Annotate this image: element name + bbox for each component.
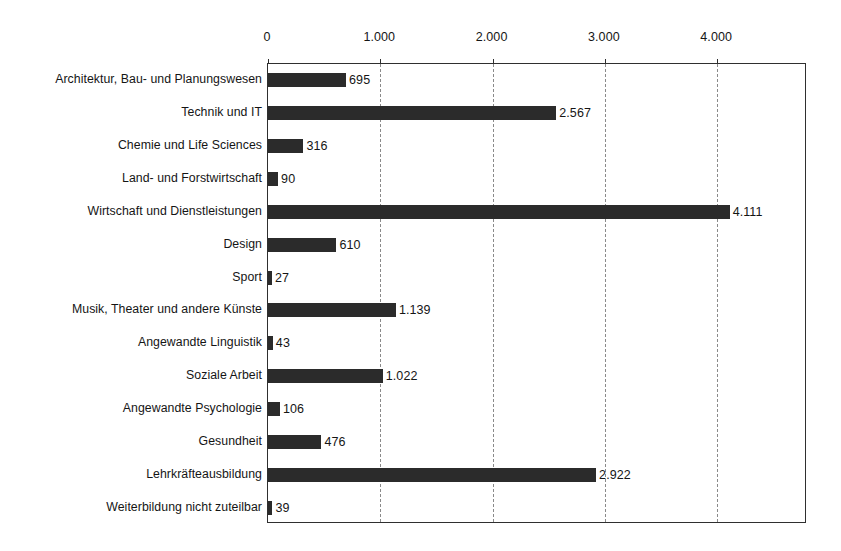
bar	[268, 172, 278, 186]
category-label: Soziale Arbeit	[186, 368, 262, 382]
category-label: Musik, Theater und andere Künste	[72, 302, 262, 316]
x-axis-tick	[268, 59, 269, 64]
x-tick-label: 1.000	[363, 30, 395, 44]
bar-value-label: 106	[283, 402, 304, 416]
bar-value-label: 476	[324, 435, 345, 449]
category-label: Angewandte Linguistik	[138, 335, 262, 349]
x-tick-label: 4.000	[700, 30, 732, 44]
bar-value-label: 1.022	[386, 369, 418, 383]
bar	[268, 369, 383, 383]
bar-value-label: 1.139	[399, 303, 431, 317]
x-tick-label: 3.000	[588, 30, 620, 44]
category-label: Gesundheit	[199, 434, 262, 448]
category-label: Wirtschaft und Dienstleistungen	[88, 204, 262, 218]
category-label: Chemie und Life Sciences	[118, 138, 262, 152]
category-label: Design	[223, 237, 262, 251]
category-label: Architektur, Bau- und Planungswesen	[55, 72, 262, 86]
bar-value-label: 695	[349, 73, 370, 87]
bar	[268, 271, 272, 285]
bar-value-label: 27	[275, 271, 289, 285]
bar-value-label: 2.567	[559, 106, 591, 120]
bar	[268, 205, 730, 219]
bar	[268, 73, 346, 87]
bar-value-label: 4.111	[733, 205, 763, 219]
category-label: Technik und IT	[181, 105, 262, 119]
bar	[268, 139, 303, 153]
gridline	[380, 64, 381, 522]
bar-value-label: 316	[306, 139, 327, 153]
x-axis-tick-labels: 01.0002.0003.0004.000	[0, 30, 841, 50]
bar	[268, 106, 556, 120]
category-label: Sport	[232, 270, 262, 284]
bar	[268, 468, 596, 482]
gridline	[493, 64, 494, 522]
gridline	[717, 64, 718, 522]
bar-value-label: 39	[275, 501, 289, 515]
bar-value-label: 2.922	[599, 468, 631, 482]
bar	[268, 303, 396, 317]
category-label: Weiterbildung nicht zuteilbar	[106, 500, 262, 514]
chart-page: 01.0002.0003.0004.000 Architektur, Bau- …	[0, 0, 841, 551]
category-label: Lehrkräfteausbildung	[146, 467, 262, 481]
category-label: Land- und Forstwirtschaft	[122, 171, 262, 185]
bar-value-label: 90	[281, 172, 295, 186]
category-label: Angewandte Psychologie	[123, 401, 262, 415]
bar-value-label: 43	[276, 336, 290, 350]
bar	[268, 435, 321, 449]
bar	[268, 402, 280, 416]
bar	[268, 238, 336, 252]
x-tick-label: 0	[263, 30, 270, 44]
gridline	[605, 64, 606, 522]
plot-area: 6952.567316904.111610271.139431.02210647…	[267, 63, 806, 523]
x-tick-label: 2.000	[476, 30, 508, 44]
bar	[268, 501, 272, 515]
bar	[268, 336, 273, 350]
bar-value-label: 610	[339, 238, 360, 252]
